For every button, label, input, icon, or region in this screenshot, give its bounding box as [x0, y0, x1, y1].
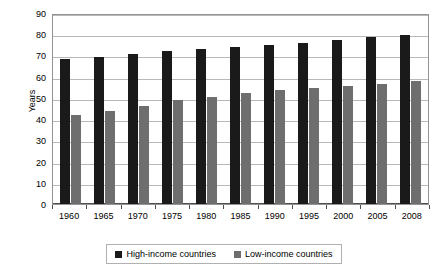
- legend-label: High-income countries: [126, 250, 216, 259]
- bar-group: [360, 15, 394, 204]
- x-axis-tick: [429, 205, 430, 209]
- x-axis-tick-label: 2000: [326, 210, 360, 224]
- bar: [196, 49, 206, 204]
- bar: [366, 37, 376, 204]
- x-axis-tick: [395, 205, 396, 209]
- bar-group: [53, 15, 87, 204]
- legend-item[interactable]: High-income countries: [115, 250, 216, 259]
- x-axis-tick-label: 1975: [155, 210, 189, 224]
- legend-swatch-icon: [234, 251, 241, 258]
- plot-area: [52, 14, 429, 205]
- bar: [241, 93, 251, 204]
- bar: [94, 57, 104, 204]
- bar: [377, 84, 387, 204]
- bar: [139, 106, 149, 204]
- x-axis-tick: [86, 205, 87, 209]
- x-axis-tick-labels: 1960196519701975198019851990199520002005…: [52, 210, 429, 224]
- x-axis-tick-label: 2008: [395, 210, 429, 224]
- bar-group: [155, 15, 189, 204]
- x-axis-tick-label: 1980: [189, 210, 223, 224]
- x-axis-tick: [258, 205, 259, 209]
- x-axis-tick: [223, 205, 224, 209]
- x-axis-tick: [189, 205, 190, 209]
- chart-legend: High-income countriesLow-income countrie…: [106, 244, 342, 264]
- bar-group: [189, 15, 223, 204]
- legend-swatch-icon: [115, 251, 122, 258]
- x-axis-tick: [326, 205, 327, 209]
- bar: [162, 51, 172, 204]
- bar: [105, 111, 115, 204]
- x-axis-tick-label: 1995: [292, 210, 326, 224]
- bar: [173, 100, 183, 204]
- bar: [207, 97, 217, 204]
- y-axis-tick-label: 0: [18, 201, 46, 210]
- bar: [128, 54, 138, 204]
- x-axis-tick-label: 1970: [121, 210, 155, 224]
- bar-group: [87, 15, 121, 204]
- bar: [230, 47, 240, 204]
- bar: [71, 115, 81, 204]
- bar-group: [258, 15, 292, 204]
- y-axis-tick-label: 50: [18, 94, 46, 103]
- x-axis-tick: [292, 205, 293, 209]
- y-axis-tick-label: 80: [18, 31, 46, 40]
- x-axis-tick-label: 1990: [258, 210, 292, 224]
- y-axis-tick-label: 40: [18, 116, 46, 125]
- bar: [411, 81, 421, 204]
- bar-groups: [53, 15, 428, 204]
- bar-group: [121, 15, 155, 204]
- bar-group: [223, 15, 257, 204]
- bar: [275, 90, 285, 204]
- bar: [264, 45, 274, 204]
- x-axis-ticks: [52, 205, 429, 209]
- bar-chart: Years 0102030405060708090 19601965197019…: [0, 0, 447, 277]
- bar-group: [292, 15, 326, 204]
- x-axis-tick: [52, 205, 53, 209]
- bar-group: [394, 15, 428, 204]
- x-axis-tick-label: 2005: [360, 210, 394, 224]
- bar-group: [326, 15, 360, 204]
- y-axis-tick-label: 30: [18, 137, 46, 146]
- legend-label: Low-income countries: [245, 250, 333, 259]
- x-axis-tick-label: 1985: [223, 210, 257, 224]
- legend-item[interactable]: Low-income countries: [234, 250, 333, 259]
- x-axis-tick-label: 1960: [52, 210, 86, 224]
- y-axis-tick-label: 10: [18, 179, 46, 188]
- bar: [332, 40, 342, 204]
- bar: [343, 86, 353, 204]
- x-axis-tick-label: 1965: [86, 210, 120, 224]
- bar: [400, 35, 410, 204]
- y-axis-tick-labels: 0102030405060708090: [18, 14, 46, 205]
- y-axis-tick-label: 60: [18, 73, 46, 82]
- y-axis-tick-label: 90: [18, 10, 46, 19]
- x-axis-tick: [121, 205, 122, 209]
- x-axis-tick: [155, 205, 156, 209]
- y-axis-tick-label: 20: [18, 158, 46, 167]
- bar: [309, 88, 319, 204]
- y-axis-tick-label: 70: [18, 52, 46, 61]
- bar: [298, 43, 308, 204]
- bar: [60, 59, 70, 204]
- x-axis-tick: [360, 205, 361, 209]
